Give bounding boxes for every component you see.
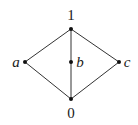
node-bottom — [69, 97, 73, 101]
label-a: a — [12, 54, 20, 70]
edges — [25, 29, 119, 99]
label-b: b — [76, 54, 84, 70]
node-c — [117, 60, 121, 64]
hasse-diagram: 1 a b c 0 — [0, 0, 138, 125]
edge-top-a — [25, 29, 71, 62]
label-bottom: 0 — [67, 105, 75, 121]
edge-a-bottom — [25, 62, 71, 99]
node-top — [69, 27, 73, 31]
nodes — [23, 27, 121, 101]
label-c: c — [124, 54, 131, 70]
node-a — [23, 60, 27, 64]
label-top: 1 — [67, 7, 75, 23]
node-b — [69, 60, 73, 64]
